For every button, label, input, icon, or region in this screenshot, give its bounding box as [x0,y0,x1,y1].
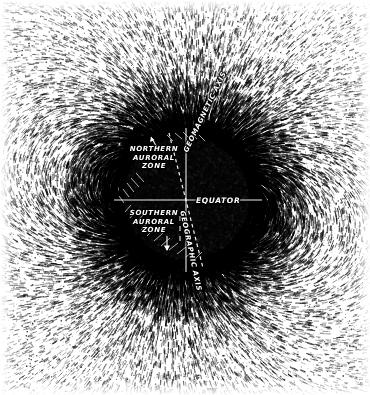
northern-auroral-zone-line-1: NORTHERN [118,145,190,154]
magnetic-field-figure: NORTHERN AURORAL ZONE SOUTHERN AURORAL Z… [0,0,370,395]
northern-auroral-zone-label: NORTHERN AURORAL ZONE [118,145,190,171]
northern-auroral-zone-line-3: ZONE [118,162,190,171]
southern-auroral-zone-line-3: ZONE [118,226,190,235]
equator-label: EQUATOR [196,196,240,205]
iron-filings-field-photograph [0,0,370,395]
northern-auroral-zone-line-2: AURORAL [118,154,190,163]
